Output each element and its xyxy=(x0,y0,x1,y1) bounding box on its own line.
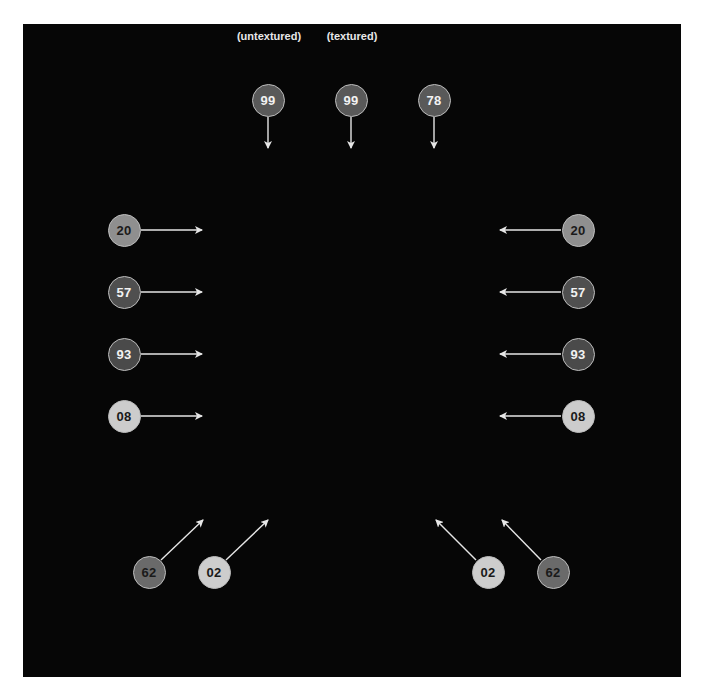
marker-left-2: 57 xyxy=(108,276,141,309)
marker-value: 08 xyxy=(571,410,586,423)
marker-bottom-right-outer: 62 xyxy=(537,556,570,589)
marker-value: 93 xyxy=(571,348,586,361)
marker-right-3: 93 xyxy=(562,338,595,371)
marker-bottom-left-outer: 62 xyxy=(133,556,166,589)
marker-value: 02 xyxy=(481,566,496,579)
marker-top-untextured: 99 xyxy=(252,84,285,117)
marker-bottom-left-inner: 02 xyxy=(198,556,231,589)
marker-value: 57 xyxy=(571,286,586,299)
marker-value: 99 xyxy=(261,94,276,107)
marker-value: 20 xyxy=(571,224,586,237)
marker-value: 93 xyxy=(117,348,132,361)
marker-value: 62 xyxy=(546,566,561,579)
marker-value: 62 xyxy=(142,566,157,579)
marker-right-1: 20 xyxy=(562,214,595,247)
marker-bottom-right-inner: 02 xyxy=(472,556,505,589)
marker-left-1: 20 xyxy=(108,214,141,247)
marker-left-4: 08 xyxy=(108,400,141,433)
marker-top-right: 78 xyxy=(418,84,451,117)
marker-value: 20 xyxy=(117,224,132,237)
marker-right-2: 57 xyxy=(562,276,595,309)
marker-value: 99 xyxy=(344,94,359,107)
marker-value: 78 xyxy=(427,94,442,107)
marker-right-4: 08 xyxy=(562,400,595,433)
marker-value: 57 xyxy=(117,286,132,299)
marker-top-textured: 99 xyxy=(335,84,368,117)
marker-left-3: 93 xyxy=(108,338,141,371)
label-textured: (textured) xyxy=(327,30,378,42)
label-untextured: (untextured) xyxy=(237,30,301,42)
marker-value: 08 xyxy=(117,410,132,423)
marker-value: 02 xyxy=(207,566,222,579)
